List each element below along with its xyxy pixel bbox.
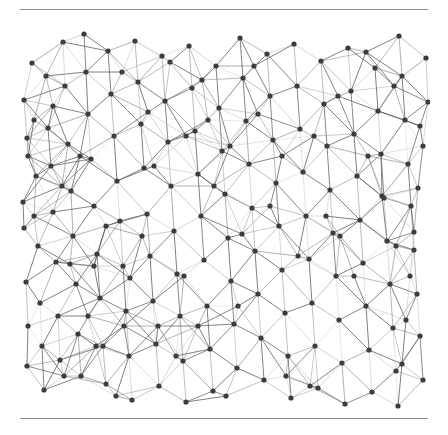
graph-edge [387, 241, 390, 284]
graph-edge [186, 136, 198, 174]
graph-node [183, 399, 188, 404]
graph-edge [165, 62, 170, 101]
graph-edge [339, 320, 369, 350]
graph-edge [123, 236, 142, 266]
graph-edge [381, 146, 423, 154]
graph-node [60, 39, 65, 44]
graph-edge [202, 78, 243, 80]
graph-node [155, 323, 160, 328]
graph-edge [249, 140, 273, 164]
graph-edge [342, 363, 372, 392]
graph-node [153, 341, 158, 346]
graph-edge [282, 256, 298, 270]
graph-edge [88, 114, 91, 159]
graph-node [141, 165, 146, 170]
graph-edge [261, 338, 288, 356]
graph-node [35, 243, 40, 248]
graph-node [363, 49, 368, 54]
figure-area [18, 16, 430, 412]
graph-edge [97, 254, 123, 266]
graph-edge [249, 164, 276, 183]
graph-edge [314, 134, 354, 136]
graph-node [240, 75, 245, 80]
graph-node [135, 79, 140, 84]
graph-node [213, 63, 218, 68]
graph-edge [148, 101, 165, 112]
graph-edge [60, 334, 78, 360]
graph-node [393, 368, 398, 373]
graph-edge [315, 320, 339, 346]
graph-edge [267, 44, 294, 54]
graph-edge [282, 259, 309, 270]
graph-node [103, 223, 108, 228]
graph-edge [420, 336, 423, 380]
graph-edge [23, 202, 24, 228]
graph-edge [255, 226, 279, 251]
graph-node [267, 203, 272, 208]
graph-edge [237, 338, 261, 368]
graph-edge [126, 311, 156, 344]
graph-node [145, 109, 150, 114]
graph-edge [24, 212, 53, 228]
graph-node [129, 397, 134, 402]
graph-edge [46, 42, 63, 76]
graph-edge [282, 129, 300, 156]
graph-edge [249, 164, 252, 208]
graph-edge [88, 114, 114, 136]
graph-node [150, 298, 155, 303]
graph-edge [100, 298, 126, 311]
graph-edge [183, 361, 186, 402]
graph-node [105, 48, 110, 53]
graph-edge [402, 76, 428, 102]
graph-edge [38, 212, 53, 246]
graph-node [327, 187, 332, 192]
graph-edge [369, 350, 396, 371]
graph-edge [198, 174, 214, 186]
graph-edge [396, 246, 410, 276]
graph-edge [27, 366, 64, 376]
graph-node [57, 357, 62, 362]
graph-node [94, 251, 99, 256]
graph-node [251, 63, 256, 68]
graph-edge [354, 134, 368, 156]
graph-node [303, 213, 308, 218]
graph-edge [286, 356, 288, 376]
graph-edge [156, 344, 176, 356]
graph-edge [135, 41, 138, 82]
graph-node [33, 173, 38, 178]
graph-edge [174, 216, 201, 231]
graph-node [21, 225, 26, 230]
graph-node [192, 128, 197, 133]
graph-edge [156, 326, 158, 344]
graph-edge [70, 264, 94, 266]
graph-node [127, 275, 132, 280]
graph-edge [312, 303, 315, 346]
graph-edge [23, 202, 53, 212]
graph-edge [270, 206, 306, 216]
graph-edge [340, 236, 363, 263]
graph-edge [294, 44, 297, 86]
graph-node [365, 153, 370, 158]
graph-edge [56, 254, 97, 262]
graph-edge [270, 86, 297, 96]
graph-edge [276, 172, 303, 183]
graph-edge [339, 320, 342, 363]
graph-node [162, 98, 167, 103]
graph-edge [261, 313, 285, 338]
graph-edge [174, 231, 204, 260]
graph-node [363, 303, 368, 308]
graph-node [357, 217, 362, 222]
graph-edge [366, 306, 393, 328]
graph-edge [214, 186, 252, 208]
graph-edge [73, 226, 106, 236]
graph-edge [129, 356, 159, 386]
graph-node [379, 193, 384, 198]
graph-edge [88, 311, 126, 316]
graph-node [339, 360, 344, 365]
graph-edge [81, 376, 116, 396]
graph-edge [142, 214, 147, 236]
graph-edge [381, 154, 408, 164]
graph-edge [369, 328, 393, 350]
graph-node [283, 373, 288, 378]
graph-edge [310, 363, 342, 386]
